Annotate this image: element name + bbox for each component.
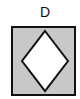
option-d-figure: D	[0, 0, 80, 99]
square-with-diamond-icon	[0, 0, 80, 99]
